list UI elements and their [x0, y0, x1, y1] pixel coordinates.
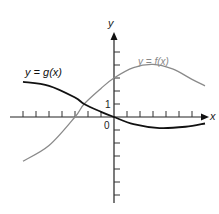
y-axis-label: y — [107, 17, 115, 29]
y-unit-label: 1 — [105, 99, 111, 110]
x-axis-label: x — [209, 110, 216, 122]
function-graph: y x 0 1 y = g(x) y = f(x) — [0, 0, 219, 214]
f-label: y = f(x) — [137, 56, 169, 67]
y-ticks — [114, 52, 120, 195]
origin-label: 0 — [104, 120, 110, 131]
y-arrow-icon — [111, 32, 118, 40]
g-label: y = g(x) — [24, 66, 62, 78]
x-arrow-icon — [201, 114, 209, 121]
